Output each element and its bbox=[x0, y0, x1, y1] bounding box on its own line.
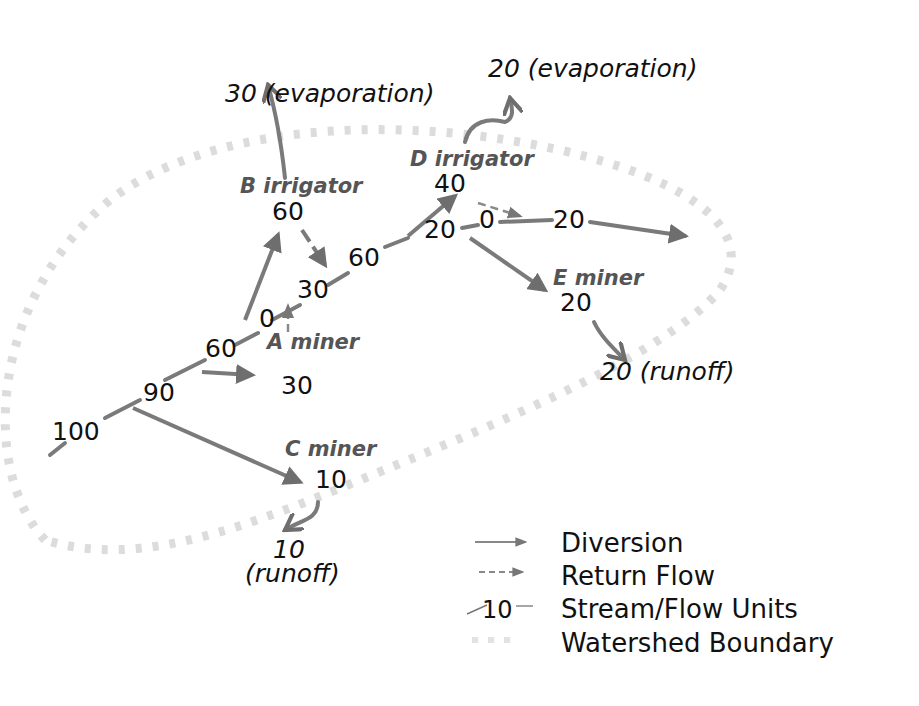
node-a-label: A miner bbox=[265, 330, 361, 354]
legend-return-flow-label: Return Flow bbox=[561, 561, 715, 591]
stream-value-20a: 20 bbox=[424, 215, 456, 244]
node-c-runoff-label: (runoff) bbox=[245, 559, 340, 588]
node-c-withdrawal: 10 bbox=[315, 465, 347, 494]
node-b-withdrawal: 60 bbox=[272, 197, 304, 226]
stream-value-0b: 0 bbox=[479, 205, 495, 234]
watershed-diagram: 100 90 60 0 30 60 20 0 20 B irrigator 60… bbox=[0, 0, 919, 706]
node-e-runoff: 20 (runoff) bbox=[600, 357, 735, 386]
stream-value-0: 0 bbox=[259, 304, 275, 333]
stream-value-90: 90 bbox=[143, 378, 175, 407]
stream-value-20b: 20 bbox=[553, 205, 585, 234]
stream-value-100: 100 bbox=[52, 417, 100, 446]
node-e-label: E miner bbox=[553, 266, 645, 290]
watershed-boundary bbox=[5, 130, 731, 550]
legend-stream-sample: 10 bbox=[482, 596, 513, 624]
node-d-evaporation: 20 (evaporation) bbox=[488, 54, 697, 83]
legend: Diversion Return Flow 10 Stream/Flow Uni… bbox=[467, 528, 834, 658]
node-b-label: B irrigator bbox=[240, 174, 364, 198]
node-c-label: C miner bbox=[285, 437, 378, 461]
legend-boundary-label: Watershed Boundary bbox=[561, 628, 834, 658]
node-e-withdrawal: 20 bbox=[560, 288, 592, 317]
stream-value-60b: 60 bbox=[348, 243, 380, 272]
stream-value-30: 30 bbox=[297, 275, 329, 304]
legend-stream-label: Stream/Flow Units bbox=[561, 594, 798, 624]
legend-boundary-icon bbox=[472, 637, 510, 643]
node-d-label: D irrigator bbox=[410, 147, 536, 171]
node-b-evaporation: 30 (evaporation) bbox=[225, 79, 434, 108]
legend-diversion-label: Diversion bbox=[561, 528, 683, 558]
node-d-withdrawal: 40 bbox=[434, 169, 466, 198]
node-a-withdrawal: 30 bbox=[281, 371, 313, 400]
stream-value-60a: 60 bbox=[205, 334, 237, 363]
